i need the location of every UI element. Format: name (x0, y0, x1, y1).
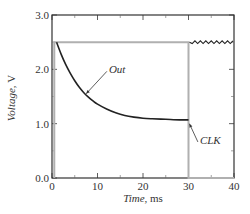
series-out (57, 42, 189, 120)
plot-border (52, 15, 234, 178)
annotation-out: Out (109, 63, 126, 75)
x-tick-label: 0 (49, 180, 55, 192)
x-tick-label: 30 (183, 180, 195, 192)
x-axis-title: Time, ms (123, 192, 163, 204)
axis-ticks: 0102030400.01.02.03.0 (35, 9, 240, 192)
x-tick-label: 40 (229, 180, 241, 192)
y-axis-title: Voltage, V (5, 75, 17, 121)
y-tick-label: 2.0 (35, 63, 49, 75)
annotation-clk: CLK (200, 134, 221, 146)
annotations: OutCLK (86, 63, 221, 146)
plot-frame (52, 15, 234, 178)
y-tick-label: 3.0 (35, 9, 49, 21)
series-clk (54, 42, 234, 178)
series-lines (54, 41, 234, 178)
series-out-ripple (190, 41, 234, 44)
y-tick-label: 1.0 (35, 118, 49, 130)
y-tick-label: 0.0 (35, 172, 49, 184)
x-tick-label: 20 (138, 180, 150, 192)
x-tick-label: 10 (92, 180, 104, 192)
voltage-time-chart: 0102030400.01.02.03.0 OutCLK Time, ms Vo… (0, 0, 250, 214)
